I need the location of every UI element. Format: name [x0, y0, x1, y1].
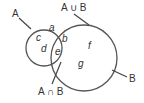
set-b-circle [51, 25, 117, 91]
element-d: d [41, 43, 47, 54]
union-label: A ∪ B [61, 2, 87, 13]
set-b-label: B [129, 73, 136, 84]
set-a-label: A [12, 8, 19, 19]
element-e: e [55, 46, 61, 57]
element-c: c [36, 32, 41, 43]
element-g: g [78, 58, 84, 69]
element-b: b [62, 33, 68, 44]
union-leader-line [74, 14, 89, 25]
venn-diagram: A A ∪ B B A ∩ B a c b d e f g [0, 0, 144, 103]
intersection-label: A ∩ B [38, 86, 64, 97]
element-a: a [49, 22, 55, 33]
element-f: f [88, 40, 92, 51]
set-a-leader-line [19, 18, 31, 29]
set-b-leader-line [112, 70, 127, 77]
